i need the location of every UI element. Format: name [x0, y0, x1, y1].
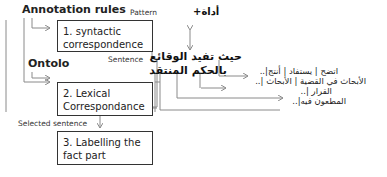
ontolo-heading: Ontolo — [28, 57, 69, 70]
arabic-sentence-line1: حيث تفيد الوقائع — [152, 50, 242, 64]
step-2-box: 2. Lexical Correspondance — [57, 82, 153, 116]
step-3-box: 3. Labelling the fact part — [57, 131, 153, 165]
arabic-tool-label: أداة+ — [193, 5, 219, 19]
sentence-label: Sentence — [108, 55, 143, 64]
step-1-box: 1. syntactic correspondence — [57, 20, 153, 52]
arabic-result-line1: اتضح | يستفاد | أنتج|.. — [248, 66, 338, 76]
selected-sentence-label: Selected sentence — [18, 119, 87, 128]
pattern-label: Pattern — [130, 8, 157, 17]
annotation-rules-heading: Annotation rules — [22, 3, 126, 16]
arabic-result-line4: المطعون فيه|.. — [280, 96, 346, 106]
arabic-result-line3: القرار |.. — [280, 86, 332, 96]
arabic-result-line2: الأبحاث في القضية | الأبحاث |.. — [248, 76, 366, 86]
arabic-sentence-line2: بالحكم المنتقد — [152, 64, 227, 78]
